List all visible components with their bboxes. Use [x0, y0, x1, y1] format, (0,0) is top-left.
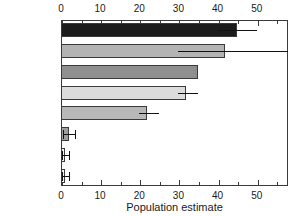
error-bar-ukraine — [218, 30, 257, 31]
x-tick-top-50 — [258, 21, 259, 26]
x-tick-label-bot-0: 0 — [46, 190, 76, 201]
error-bar-cap-greece-low — [62, 151, 63, 160]
x-tick-bot-50 — [258, 180, 259, 185]
x-tick-bot-35 — [199, 182, 200, 185]
x-tick-label-top-0: 0 — [46, 3, 76, 14]
error-bar-greece — [62, 155, 69, 156]
error-bar-croatia — [62, 176, 69, 177]
error-bar-cap-croatia-high — [69, 172, 70, 181]
x-tick-bot-55 — [277, 182, 278, 185]
x-tick-label-bot-40: 40 — [203, 190, 233, 201]
error-bar-slovakia — [178, 93, 198, 94]
error-bar-cap-moldova-low — [63, 130, 64, 139]
error-bar-bulgaria — [139, 113, 159, 114]
x-tick-label-top-40: 40 — [203, 3, 233, 14]
x-tick-bot-20 — [140, 180, 141, 185]
bar-slovakia — [61, 86, 186, 100]
x-tick-top-55 — [277, 21, 278, 24]
error-bar-cap-greece-high — [69, 151, 70, 160]
error-bar-cap-moldova-high — [75, 130, 76, 139]
chart-figure: 0010102020303040405050 UKRAINEROMANIAHUN… — [0, 0, 296, 216]
x-tick-label-top-10: 10 — [85, 3, 115, 14]
x-tick-bot-45 — [238, 182, 239, 185]
error-bar-moldova — [63, 134, 75, 135]
bar-ukraine — [61, 23, 237, 37]
x-tick-bot-40 — [219, 180, 220, 185]
x-tick-bot-5 — [82, 182, 83, 185]
x-tick-label-bot-10: 10 — [85, 190, 115, 201]
error-bar-cap-croatia-low — [62, 172, 63, 181]
x-tick-label-bot-50: 50 — [242, 190, 272, 201]
error-bar-romania — [178, 51, 288, 52]
x-tick-label-top-50: 50 — [242, 3, 272, 14]
x-tick-top-45 — [238, 21, 239, 24]
x-tick-label-bot-20: 20 — [124, 190, 154, 201]
x-tick-bot-10 — [101, 180, 102, 185]
bar-hungary — [61, 65, 198, 79]
x-tick-label-top-30: 30 — [163, 3, 193, 14]
x-axis-title: Population estimate — [61, 201, 288, 213]
x-tick-bot-15 — [121, 182, 122, 185]
x-tick-bot-25 — [160, 182, 161, 185]
x-tick-bot-30 — [179, 180, 180, 185]
x-tick-label-bot-30: 30 — [163, 190, 193, 201]
x-tick-label-top-20: 20 — [124, 3, 154, 14]
bar-bulgaria — [61, 106, 147, 120]
